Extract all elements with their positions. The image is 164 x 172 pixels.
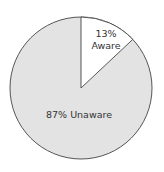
label-aware: 13% Aware — [91, 28, 121, 52]
label-aware-name: Aware — [91, 40, 121, 52]
label-aware-pct: 13% — [91, 28, 121, 40]
pie-chart — [0, 0, 164, 172]
label-unaware: 87% Unaware — [46, 109, 112, 121]
